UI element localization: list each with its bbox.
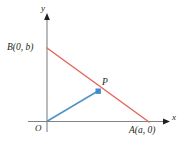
point-label-A: A(a, 0) (129, 126, 155, 136)
point-marker-P (96, 89, 101, 94)
segment-BA (47, 48, 149, 122)
x-axis-arrow-icon (163, 119, 170, 125)
y-axis-arrow-icon (44, 13, 50, 20)
segment-OP (48, 91, 99, 121)
geometry-figure: y x O B(0, b) A(a, 0) P (0, 0, 188, 149)
y-axis-label: y (41, 4, 45, 13)
origin-label: O (35, 124, 42, 133)
point-label-P: P (102, 78, 108, 88)
figure-canvas (0, 0, 188, 149)
point-label-B: B(0, b) (7, 43, 33, 53)
x-axis-label: x (172, 113, 176, 122)
